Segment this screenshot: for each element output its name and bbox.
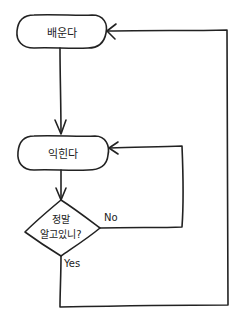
node-check-label-line2: 알고있니? — [31, 226, 91, 241]
flowchart-canvas — [0, 0, 243, 327]
edge-label-no: No — [104, 212, 118, 223]
edge-check-to-learn-yes — [60, 30, 228, 307]
edge-label-yes: Yes — [64, 258, 80, 269]
edge-learn-to-practice — [60, 48, 61, 133]
node-learn-label: 배운다 — [17, 24, 106, 40]
node-practice-label: 익힌다 — [18, 145, 108, 161]
node-check-label-line1: 정말 — [31, 211, 91, 226]
